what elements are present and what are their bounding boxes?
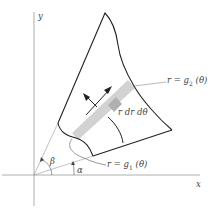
inner-arc (108, 117, 123, 143)
beta-label: β (50, 157, 55, 166)
outer-straight-edge (93, 130, 172, 156)
radial-arrowhead-icon (104, 86, 112, 94)
inner-curve-label-rhs: (θ) (133, 159, 147, 169)
g2-leader-line (134, 82, 166, 86)
diagram-svg (0, 0, 215, 212)
area-element-label: r dr dθ (118, 108, 148, 117)
inner-curve-label: r = g1 (θ) (107, 160, 147, 171)
x-axis-label: x (196, 180, 201, 189)
y-axis-label: y (38, 12, 43, 21)
outer-curve-label-lhs: r = g (167, 75, 189, 85)
ray-beta (34, 123, 58, 175)
inner-curve-label-lhs: r = g (107, 159, 129, 169)
outer-curve-label: r = g2 (θ) (167, 76, 207, 87)
outer-curve-label-rhs: (θ) (193, 75, 207, 85)
polar-region-diagram: y x r = g2 (θ) r dr dθ r = g1 (θ) β α (0, 0, 215, 212)
angular-arrowhead-icon (83, 93, 90, 101)
outer-curve-g2 (58, 13, 172, 130)
g1-leader-line (70, 139, 106, 165)
alpha-label: α (77, 166, 83, 175)
